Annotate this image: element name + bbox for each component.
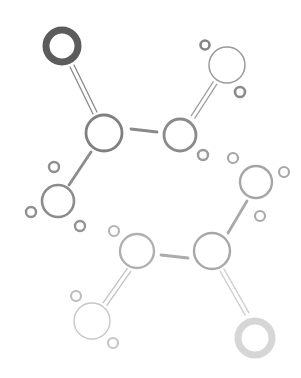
hydrogen-atom-icon (26, 207, 36, 217)
bond-line (131, 129, 157, 132)
bonds-layer (69, 65, 249, 315)
double-bond (103, 269, 131, 306)
hydrogen-atom-icon (71, 291, 81, 301)
atom-carbon-icon (120, 234, 154, 268)
hydrogen-atom-icon (201, 41, 210, 50)
atom-carbon-icon (86, 115, 122, 151)
bond-line (224, 269, 249, 313)
bond-line (74, 65, 97, 112)
bond-line (228, 201, 247, 233)
bond-line (69, 152, 91, 185)
double-bond (220, 269, 249, 315)
bond-line (70, 67, 93, 114)
atom-carbon-icon (194, 233, 230, 269)
hydrogen-atom-icon (255, 211, 265, 221)
atom-carbon-icon (164, 119, 196, 151)
atom-carbon-icon (42, 185, 74, 217)
hydrogen-atom-icon (228, 153, 238, 163)
atom-oxygen-heavy-icon (238, 321, 272, 355)
hydrogens-layer (26, 41, 289, 349)
bond-line (195, 84, 217, 118)
bond-line (191, 82, 213, 116)
hydrogen-atom-icon (49, 162, 59, 172)
hydrogen-atom-icon (109, 226, 119, 236)
bond-line (107, 271, 131, 305)
hydrogen-atom-icon (279, 167, 289, 177)
hydrogen-atom-icon (198, 150, 208, 160)
atom-oxygen-heavy-icon (46, 30, 78, 62)
bond-line (220, 271, 245, 315)
single-bond (161, 255, 188, 258)
double-bond (191, 82, 217, 118)
bond-line (103, 269, 127, 303)
molecule-diagram (0, 0, 301, 378)
atom-oxygen-icon (74, 303, 110, 339)
hydrogen-atom-icon (235, 87, 245, 97)
single-bond (131, 129, 157, 132)
bond-line (161, 255, 188, 258)
single-bond (228, 201, 247, 233)
double-bond (70, 65, 97, 114)
hydrogen-atom-icon (75, 221, 85, 231)
atom-oxygen-icon (209, 47, 245, 83)
atom-carbon-icon (240, 166, 272, 198)
hydrogen-atom-icon (108, 338, 118, 348)
single-bond (69, 152, 91, 185)
